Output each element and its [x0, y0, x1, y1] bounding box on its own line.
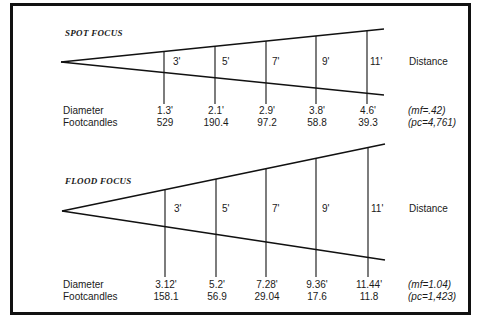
flood-footcandles-row-label: Footcandles — [63, 291, 117, 302]
spot-footcandles-value: 39.3 — [358, 117, 378, 128]
spot-distance-label: 5' — [222, 56, 230, 67]
spot-pc-note: (pc=4,761) — [408, 117, 456, 128]
flood-footcandles-value: 29.04 — [254, 291, 279, 302]
spot-diameter-row-label: Diameter — [63, 105, 104, 116]
spot-focus-diagram: SPOT FOCUS 3' 5' 7' 9' 11' Distance Diam… — [61, 28, 456, 128]
spot-footcandles-value: 97.2 — [257, 117, 277, 128]
spot-footcandles-value: 58.8 — [307, 117, 327, 128]
spot-distance-axis-label: Distance — [409, 56, 448, 67]
flood-diameter-row-label: Diameter — [63, 279, 104, 290]
spot-focus-title: SPOT FOCUS — [65, 28, 123, 38]
spot-distance-label: 9' — [322, 56, 330, 67]
flood-distance-label: 5' — [222, 203, 230, 214]
flood-beam-lower-edge — [62, 211, 385, 260]
spot-diameter-value: 1.3' — [157, 105, 173, 116]
flood-footcandles-value: 17.6 — [307, 291, 327, 302]
flood-distance-label: 7' — [272, 203, 280, 214]
flood-mf-note: (mf=1.04) — [408, 279, 451, 290]
flood-focus-diagram: FLOOD FOCUS 3' 5' 7' 9' 11' Distance Dia… — [62, 144, 456, 302]
flood-focus-title: FLOOD FOCUS — [64, 176, 132, 186]
spot-footcandles-value: 529 — [157, 117, 174, 128]
spot-diameter-value: 3.8' — [309, 105, 325, 116]
spot-diameter-value: 2.9' — [259, 105, 275, 116]
flood-distance-label: 9' — [322, 203, 330, 214]
flood-distance-label: 11' — [371, 203, 383, 214]
flood-diameter-value: 3.12' — [155, 279, 176, 290]
flood-distance-label: 3' — [174, 203, 182, 214]
spot-diameter-value: 4.6' — [360, 105, 376, 116]
flood-pc-note: (pc=1,423) — [408, 291, 456, 302]
spot-footcandles-value: 190.4 — [203, 117, 228, 128]
flood-footcandles-value: 158.1 — [153, 291, 178, 302]
flood-diameter-value: 9.36' — [306, 279, 327, 290]
beam-spread-diagrams: SPOT FOCUS 3' 5' 7' 9' 11' Distance Diam… — [0, 0, 477, 318]
spot-distance-label: 3' — [173, 56, 181, 67]
flood-footcandles-value: 56.9 — [207, 291, 227, 302]
spot-distance-label: 7' — [272, 56, 280, 67]
flood-diameter-value: 7.28' — [256, 279, 277, 290]
spot-mf-note: (mf=.42) — [408, 105, 446, 116]
spot-footcandles-row-label: Footcandles — [63, 117, 117, 128]
flood-footcandles-value: 11.8 — [360, 291, 379, 302]
flood-diameter-value: 11.44' — [356, 279, 382, 290]
spot-distance-label: 11' — [370, 56, 382, 67]
spot-diameter-value: 2.1' — [208, 105, 224, 116]
flood-distance-axis-label: Distance — [409, 203, 448, 214]
flood-diameter-value: 5.2' — [209, 279, 225, 290]
